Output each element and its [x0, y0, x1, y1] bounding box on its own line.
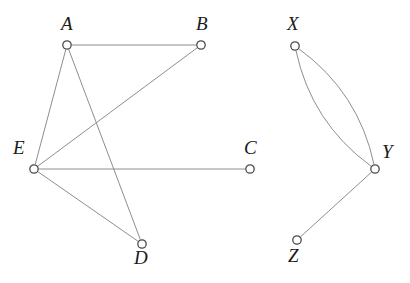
node-label-c: C: [244, 138, 257, 157]
graph-figure: ABCDEXYZ: [0, 0, 410, 283]
edge-x-y: [299, 49, 373, 164]
node-x: [291, 42, 299, 50]
edge-y-z: [301, 173, 371, 237]
node-label-e: E: [13, 138, 25, 157]
node-e: [30, 165, 38, 173]
node-layer: [30, 41, 379, 248]
edge-x-y: [296, 51, 370, 166]
node-y: [371, 165, 379, 173]
node-z: [293, 236, 301, 244]
node-label-b: B: [196, 14, 208, 33]
edge-e-d: [38, 172, 137, 241]
node-c: [246, 165, 254, 173]
edge-a-e: [35, 50, 65, 164]
node-b: [197, 41, 205, 49]
node-label-a: A: [61, 14, 73, 33]
node-a: [63, 41, 71, 49]
node-label-d: D: [134, 248, 148, 267]
node-label-x: X: [287, 14, 299, 33]
node-label-z: Z: [288, 246, 299, 265]
edge-layer: [35, 45, 373, 241]
node-label-y: Y: [382, 142, 393, 161]
edge-e-b: [38, 48, 196, 166]
graph-canvas: [0, 0, 410, 283]
edge-a-d: [69, 50, 140, 239]
